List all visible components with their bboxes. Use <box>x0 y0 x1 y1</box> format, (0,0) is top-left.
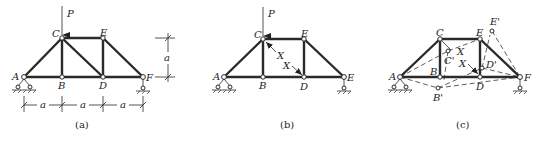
node-label-f: F <box>145 72 154 83</box>
node-label-e: E <box>300 28 309 39</box>
displaced-label-c: C' <box>444 55 454 66</box>
dimension-vertical: a <box>155 33 175 82</box>
displaced-label-e: E' <box>489 16 500 27</box>
redundant-force-arrow-icon <box>468 64 478 74</box>
dimension-label: a <box>120 99 126 110</box>
redundant-force-arrow-icon <box>266 42 276 52</box>
redundant-force-arrow-icon <box>292 66 302 75</box>
node-label-a: A <box>11 71 19 82</box>
redundant-force-arrow-icon <box>441 40 451 50</box>
node-label-d: D <box>475 81 484 92</box>
node-label-f: F <box>523 72 532 83</box>
panel-caption: (c) <box>456 119 470 130</box>
dimension-label: a <box>40 99 46 110</box>
truss-figure: P C E A B D F a <box>0 0 535 144</box>
redundant-label: X <box>458 58 467 69</box>
panel-b: P X X C E A B D E (b) <box>212 7 355 130</box>
node-label-c: C <box>52 28 60 39</box>
node-label-e-right: E <box>346 72 355 83</box>
node-label-d: D <box>98 80 107 91</box>
redundant-label: X <box>282 60 291 71</box>
node-label-a: A <box>212 71 220 82</box>
node-label-a: A <box>388 71 396 82</box>
panel-a: P C E A B D F a <box>11 6 175 130</box>
displaced-label-b: B' <box>432 92 443 103</box>
panel-c: X X C E A B D F C' D' B' E' (c) <box>388 16 532 130</box>
node-label-c: C <box>254 29 262 40</box>
node-label-b: B <box>429 66 437 77</box>
node-label-e: E <box>99 27 108 38</box>
panel-caption: (a) <box>75 119 89 130</box>
load-label: P <box>66 8 74 19</box>
redundant-label: X <box>456 46 465 57</box>
load-label: P <box>267 8 275 19</box>
node-label-b: B <box>258 80 266 91</box>
node-label-b: B <box>57 80 65 91</box>
node-label-d: D <box>299 81 308 92</box>
dimension-label: a <box>164 52 170 63</box>
truss-members <box>24 38 143 77</box>
node-label-e: E <box>475 27 484 38</box>
panel-caption: (b) <box>280 119 294 130</box>
node-label-c: C <box>436 27 444 38</box>
displaced-label-d: D' <box>485 59 497 70</box>
dimension-label: a <box>80 99 86 110</box>
dimension-horizontal: a a a <box>21 96 146 112</box>
